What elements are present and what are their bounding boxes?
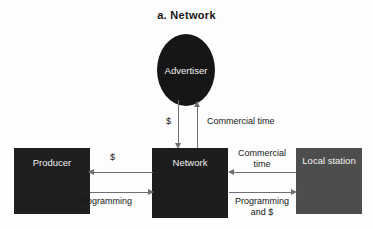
edge-advertiser-network-time-line xyxy=(197,105,198,148)
node-network-label: Network xyxy=(173,157,208,168)
edge-label-money-left: $ xyxy=(110,152,115,163)
edge-network-producer-money-arrowhead xyxy=(88,169,94,175)
edge-network-advertiser-money-line xyxy=(178,100,179,144)
edge-network-local-programming-line xyxy=(229,192,293,193)
edge-network-producer-money-line xyxy=(91,172,153,173)
diagram-title: a. Network xyxy=(0,9,373,21)
edge-label-programming-and-money: Programming and $ xyxy=(231,196,293,217)
node-local-station: Local station xyxy=(296,148,362,214)
edge-local-network-time-line xyxy=(232,172,296,173)
edge-local-network-time-arrowhead xyxy=(228,169,234,175)
edge-producer-network-programming-arrowhead xyxy=(148,189,154,195)
node-producer-label: Producer xyxy=(33,157,72,168)
edge-producer-network-programming-line xyxy=(90,192,151,193)
edge-advertiser-network-time-arrowhead xyxy=(194,101,200,107)
edge-network-local-programming-arrowhead xyxy=(291,189,297,195)
edge-label-money-vertical: $ xyxy=(166,116,171,127)
edge-label-programming-left: Programming xyxy=(78,196,132,207)
diagram-canvas: a. Network Advertiser $ Commercial time … xyxy=(0,0,373,229)
node-advertiser: Advertiser xyxy=(157,34,215,106)
edge-label-commercial-time-right: Commercial time xyxy=(232,148,292,169)
edge-label-commercial-time-top: Commercial time xyxy=(207,116,275,127)
node-network: Network xyxy=(152,148,228,218)
node-advertiser-label: Advertiser xyxy=(165,65,208,76)
node-local-station-label: Local station xyxy=(302,155,355,166)
